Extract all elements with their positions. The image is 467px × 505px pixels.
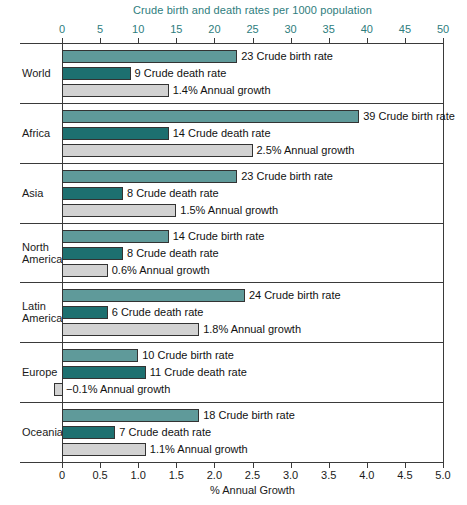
bar-birth-africa (62, 110, 359, 123)
top-tick-label: 20 (208, 23, 220, 35)
bar-birth-europe (62, 349, 138, 362)
bar-value-label: 8 Crude death rate (127, 247, 219, 260)
top-tick-mark (329, 38, 330, 43)
top-tick-label: 35 (323, 23, 335, 35)
top-tick-label: 0 (59, 23, 65, 35)
bottom-tick-label: 1.5 (169, 469, 184, 481)
bar-birth-north-america (62, 230, 169, 243)
region-label-line: Latin (22, 300, 62, 312)
bottom-tick-mark (100, 463, 101, 468)
bar-value-label: 7 Crude death rate (119, 426, 211, 439)
bar-growth-asia (62, 204, 176, 217)
bottom-tick-label: 2.0 (207, 469, 222, 481)
bottom-tick-label: 1.0 (131, 469, 146, 481)
region-label-line: America (22, 312, 62, 324)
population-rates-chart: Crude birth and death rates per 1000 pop… (0, 0, 467, 505)
bar-growth-north-america (62, 264, 108, 277)
region-label-north-america: NorthAmerica (22, 241, 62, 265)
top-tick-label: 15 (170, 23, 182, 35)
top-tick-mark (291, 38, 292, 43)
bar-value-label: 1.4% Annual growth (173, 84, 271, 97)
top-axis-title: Crude birth and death rates per 1000 pop… (62, 4, 443, 16)
top-tick-label: 5 (97, 23, 103, 35)
top-tick-mark (253, 38, 254, 43)
bar-value-label: 23 Crude birth rate (241, 50, 333, 63)
bottom-tick-mark (138, 463, 139, 468)
region-label-line: Oceania (22, 426, 62, 438)
region-label-line: Africa (22, 127, 62, 139)
bar-value-label: 14 Crude birth rate (173, 230, 265, 243)
top-tick-label: 10 (132, 23, 144, 35)
bar-death-africa (62, 127, 169, 140)
bar-growth-africa (62, 144, 253, 157)
top-tick-label: 50 (437, 23, 449, 35)
group-separator (20, 282, 443, 283)
bar-growth-oceania (62, 443, 146, 456)
bottom-tick-label: 4.0 (359, 469, 374, 481)
top-tick-mark (443, 38, 444, 43)
bottom-tick-label: 5.0 (435, 469, 450, 481)
bottom-tick-mark (176, 463, 177, 468)
bar-death-asia (62, 187, 123, 200)
top-tick-mark (214, 38, 215, 43)
bar-value-label: 1.8% Annual growth (203, 323, 301, 336)
bar-value-label: 9 Crude death rate (135, 67, 227, 80)
region-label-line: Europe (22, 366, 62, 378)
region-label-asia: Asia (22, 187, 62, 199)
region-label-line: World (22, 67, 62, 79)
bar-birth-world (62, 50, 237, 63)
bar-value-label: 14 Crude death rate (173, 127, 271, 140)
top-tick-label: 30 (284, 23, 296, 35)
top-tick-label: 45 (399, 23, 411, 35)
region-label-latin-america: LatinAmerica (22, 300, 62, 324)
region-label-line: America (22, 253, 62, 265)
bar-death-europe (62, 366, 146, 379)
bar-birth-latin-america (62, 289, 245, 302)
bottom-tick-label: 0.5 (92, 469, 107, 481)
bottom-tick-mark (405, 463, 406, 468)
bottom-tick-label: 2.5 (245, 469, 260, 481)
bottom-tick-label: 4.5 (397, 469, 412, 481)
bar-death-oceania (62, 426, 115, 439)
bar-value-label: 18 Crude birth rate (203, 409, 295, 422)
group-separator (20, 103, 443, 104)
bar-value-label: 6 Crude death rate (112, 306, 204, 319)
region-label-line: North (22, 241, 62, 253)
bottom-tick-label: 3.0 (283, 469, 298, 481)
top-tick-mark (405, 38, 406, 43)
bottom-tick-label: 3.5 (321, 469, 336, 481)
bar-value-label: 0.6% Annual growth (112, 264, 210, 277)
bar-growth-world (62, 84, 169, 97)
bottom-tick-mark (291, 463, 292, 468)
bar-death-latin-america (62, 306, 108, 319)
region-label-africa: Africa (22, 127, 62, 139)
bar-value-label: 11 Crude death rate (150, 366, 247, 379)
bar-value-label: 1.1% Annual growth (150, 443, 248, 456)
bar-value-label: 39 Crude birth rate (363, 110, 455, 123)
top-tick-label: 25 (246, 23, 258, 35)
top-tick-mark (62, 38, 63, 43)
top-tick-mark (367, 38, 368, 43)
bottom-tick-mark (443, 463, 444, 468)
group-separator (20, 163, 443, 164)
bar-growth-europe (54, 383, 63, 396)
bar-value-label: 2.5% Annual growth (257, 144, 355, 157)
bottom-tick-mark (367, 463, 368, 468)
bar-death-north-america (62, 247, 123, 260)
group-separator (20, 342, 443, 343)
bar-birth-oceania (62, 409, 199, 422)
bar-value-label: 10 Crude birth rate (142, 349, 234, 362)
bottom-tick-mark (253, 463, 254, 468)
group-separator (20, 402, 443, 403)
bottom-axis-line (20, 462, 443, 463)
top-tick-mark (176, 38, 177, 43)
bar-value-label: 1.5% Annual growth (180, 204, 278, 217)
bar-value-label: −0.1% Annual growth (66, 383, 170, 396)
top-tick-label: 40 (361, 23, 373, 35)
bottom-tick-mark (329, 463, 330, 468)
region-label-line: Asia (22, 187, 62, 199)
top-tick-mark (138, 38, 139, 43)
right-axis-line (443, 43, 444, 463)
group-separator (20, 223, 443, 224)
bottom-tick-mark (62, 463, 63, 468)
